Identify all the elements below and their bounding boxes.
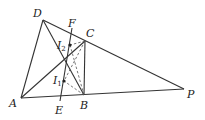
segment-BI1 (64, 81, 84, 95)
label-I1: I1 (52, 74, 62, 88)
geometry-diagram: D F C I2 I1 A E B P (0, 0, 205, 120)
point-I1 (62, 79, 65, 82)
segment-EF (60, 28, 72, 101)
point-I2 (68, 43, 71, 46)
segment-AP (21, 89, 184, 98)
label-F: F (67, 17, 76, 30)
label-C: C (86, 27, 95, 40)
labels: D F C I2 I1 A E B P (8, 7, 195, 117)
segment-DB (43, 20, 84, 95)
label-P: P (186, 88, 195, 101)
label-B: B (79, 99, 88, 112)
label-D: D (32, 7, 42, 20)
segment-DA (21, 20, 43, 98)
dashed-lines (64, 41, 85, 95)
label-I2: I2 (56, 39, 66, 53)
label-A: A (8, 97, 17, 110)
label-E: E (54, 104, 63, 117)
segment-CB (84, 41, 85, 95)
segment-CI1 (64, 41, 85, 81)
solid-lines (21, 20, 184, 101)
